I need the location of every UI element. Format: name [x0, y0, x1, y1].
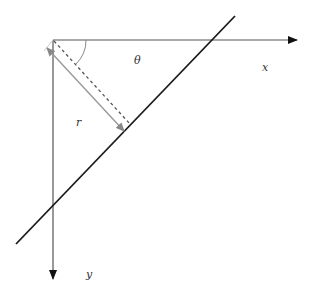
distance-label: r	[76, 116, 82, 129]
y-axis-label: y	[85, 268, 93, 281]
angle-arc	[76, 40, 86, 64]
normal-dashed-line	[54, 41, 130, 124]
angle-label: θ	[134, 54, 141, 67]
x-axis-label: x	[262, 61, 269, 74]
diagram-canvas: θ x r y	[0, 0, 310, 293]
distance-arrow	[47, 48, 124, 131]
